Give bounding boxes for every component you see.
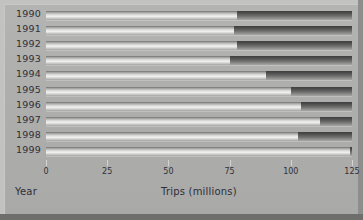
x-axis-tick (168, 160, 169, 166)
bar-category-label: 1994 (5, 68, 41, 79)
bar-category-label: 1990 (5, 8, 41, 19)
bar-category-label: 1996 (5, 99, 41, 110)
bar-row: 1999 (5, 146, 352, 157)
bar-fill[interactable] (46, 71, 266, 80)
bar-category-label: 1998 (5, 129, 41, 140)
bar-category-label: 1993 (5, 53, 41, 64)
bar-fill[interactable] (46, 87, 291, 96)
bar-category-label: 1992 (5, 38, 41, 49)
bar-fill[interactable] (46, 56, 230, 65)
bar-track (46, 11, 352, 20)
bar-row: 1998 (5, 131, 352, 142)
x-axis-tick-label: 25 (102, 167, 112, 176)
x-axis-tick-label: 100 (283, 167, 298, 176)
x-axis-tick-label: 125 (344, 167, 359, 176)
bar-row: 1996 (5, 101, 352, 112)
bar-row: 1997 (5, 116, 352, 127)
bar-row: 1992 (5, 40, 352, 51)
bar-fill[interactable] (46, 147, 350, 156)
x-axis-tick (352, 160, 353, 166)
bar-fill[interactable] (46, 117, 320, 126)
bar-track (46, 147, 352, 156)
bar-track (46, 87, 352, 96)
bar-row: 1990 (5, 10, 352, 21)
chart-container: 1990199119921993199419951996199719981999… (0, 0, 363, 220)
y-axis-title: Year (15, 186, 37, 197)
bar-track (46, 41, 352, 50)
frame-bevel-left (0, 0, 4, 214)
x-axis-tick-label: 0 (43, 167, 48, 176)
x-axis-title: Trips (millions) (46, 186, 352, 197)
frame-bevel-top (0, 0, 363, 4)
bar-track (46, 56, 352, 65)
frame-bevel-bottom (0, 214, 363, 220)
frame-bevel-right (358, 0, 363, 214)
bar-fill[interactable] (46, 11, 237, 20)
x-axis-tick (46, 160, 47, 166)
x-axis-tick (230, 160, 231, 166)
bar-category-label: 1991 (5, 23, 41, 34)
x-axis-tick (291, 160, 292, 166)
x-axis-tick-label: 75 (225, 167, 235, 176)
x-axis-tick (107, 160, 108, 166)
bar-fill[interactable] (46, 132, 298, 141)
bar-fill[interactable] (46, 102, 301, 111)
bar-fill[interactable] (46, 41, 237, 50)
bar-row: 1993 (5, 55, 352, 66)
x-axis-tick-label: 50 (163, 167, 173, 176)
bar-fill[interactable] (46, 26, 234, 35)
bar-row: 1995 (5, 86, 352, 97)
bar-track (46, 26, 352, 35)
bar-track (46, 132, 352, 141)
plot-area: 1990199119921993199419951996199719981999… (5, 5, 358, 214)
bar-row: 1994 (5, 70, 352, 81)
bar-track (46, 117, 352, 126)
bar-category-label: 1995 (5, 84, 41, 95)
bar-category-label: 1997 (5, 114, 41, 125)
bar-row: 1991 (5, 25, 352, 36)
bar-track (46, 102, 352, 111)
bar-category-label: 1999 (5, 144, 41, 155)
bar-track (46, 71, 352, 80)
